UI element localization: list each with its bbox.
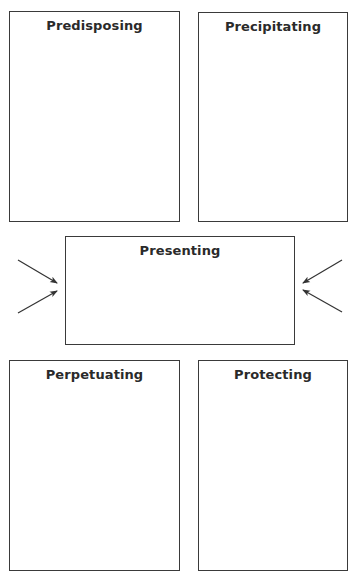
perpetuating-title: Perpetuating bbox=[10, 367, 179, 382]
arrow-precipitating-to-presenting-icon bbox=[303, 260, 342, 283]
arrow-perpetuating-to-presenting-icon bbox=[18, 291, 57, 313]
arrow-protecting-to-presenting-icon bbox=[303, 290, 342, 312]
predisposing-writing-area[interactable] bbox=[14, 38, 175, 217]
protecting-writing-area[interactable] bbox=[203, 387, 343, 566]
predisposing-title: Predisposing bbox=[10, 18, 179, 33]
precipitating-title: Precipitating bbox=[199, 19, 347, 34]
perpetuating-writing-area[interactable] bbox=[14, 387, 175, 566]
precipitating-writing-area[interactable] bbox=[203, 39, 343, 217]
presenting-writing-area[interactable] bbox=[70, 263, 290, 340]
presenting-title: Presenting bbox=[66, 243, 294, 258]
perpetuating-box[interactable]: Perpetuating bbox=[9, 360, 180, 571]
precipitating-box[interactable]: Precipitating bbox=[198, 12, 348, 222]
protecting-box[interactable]: Protecting bbox=[198, 360, 348, 571]
arrow-predisposing-to-presenting-icon bbox=[18, 260, 57, 283]
protecting-title: Protecting bbox=[199, 367, 347, 382]
presenting-box[interactable]: Presenting bbox=[65, 236, 295, 345]
predisposing-box[interactable]: Predisposing bbox=[9, 11, 180, 222]
